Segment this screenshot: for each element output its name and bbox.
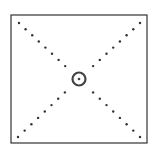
guide-dot: [37, 117, 39, 119]
guide-dot: [139, 136, 141, 138]
guide-dot: [50, 104, 52, 106]
guide-dot: [119, 117, 121, 119]
guide-dot: [112, 46, 114, 48]
guide-dot: [99, 59, 101, 61]
center-target-icon: [73, 73, 86, 86]
guide-dot: [24, 129, 26, 131]
guide-dot: [38, 40, 40, 42]
guide-dot: [18, 22, 20, 24]
guide-dot: [31, 34, 33, 36]
guide-dot: [57, 59, 59, 61]
guide-dot: [139, 22, 141, 24]
guide-dot: [17, 136, 19, 138]
guide-dot: [105, 53, 107, 55]
guide-dot: [44, 110, 46, 112]
guide-dot: [105, 104, 107, 106]
guide-dot: [119, 40, 121, 42]
guide-dot: [132, 28, 134, 30]
guide-dot: [64, 91, 66, 93]
guide-dot: [125, 34, 127, 36]
guide-dot: [51, 53, 53, 55]
guide-dot: [99, 98, 101, 100]
viewfinder-diagram: [0, 0, 157, 155]
guide-dot: [125, 123, 127, 125]
guide-dot: [44, 46, 46, 48]
guide-dot: [132, 129, 134, 131]
guide-dot: [24, 28, 26, 30]
guide-dot: [112, 110, 114, 112]
guide-dot: [92, 91, 94, 93]
guide-dot: [30, 123, 32, 125]
guide-dot: [57, 98, 59, 100]
guide-dot: [92, 65, 94, 67]
guide-dot: [64, 65, 66, 67]
